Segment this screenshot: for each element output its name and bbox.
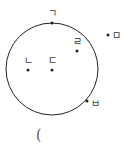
circle-diagram: ㄱ ㄴ ㄷ ㄹ ㅁ ㅂ ( <box>0 0 123 145</box>
point-digeut <box>51 69 54 72</box>
point-bieup <box>86 100 89 103</box>
point-nieun <box>27 69 30 72</box>
label-giyeok: ㄱ <box>48 8 57 19</box>
label-nieun: ㄴ <box>24 55 33 66</box>
partial-paren: ( <box>36 127 41 143</box>
label-digeut: ㄷ <box>48 55 57 66</box>
point-mieum <box>107 34 110 37</box>
point-giyeok <box>51 22 54 25</box>
label-rieul: ㄹ <box>73 36 82 47</box>
label-bieup: ㅂ <box>91 98 100 109</box>
point-rieul <box>76 50 79 53</box>
label-mieum: ㅁ <box>112 30 121 41</box>
